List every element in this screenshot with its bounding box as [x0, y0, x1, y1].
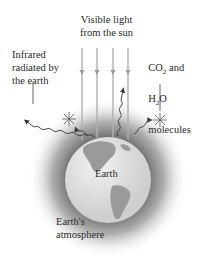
- globe-icon: [65, 137, 151, 223]
- molecules-text: molecules: [148, 124, 191, 135]
- atmosphere-label: Earth's atmosphere: [56, 215, 104, 241]
- visible-light-label: Visible light from the sun: [80, 13, 133, 39]
- infrared-label: Infrared radiated by the earth: [12, 48, 59, 87]
- earth-label: Earth: [95, 167, 118, 180]
- h2o-text: H2O: [148, 93, 167, 104]
- co2-text: CO2 and: [148, 62, 184, 73]
- molecules-label: CO2 and H2O molecules: [143, 48, 191, 136]
